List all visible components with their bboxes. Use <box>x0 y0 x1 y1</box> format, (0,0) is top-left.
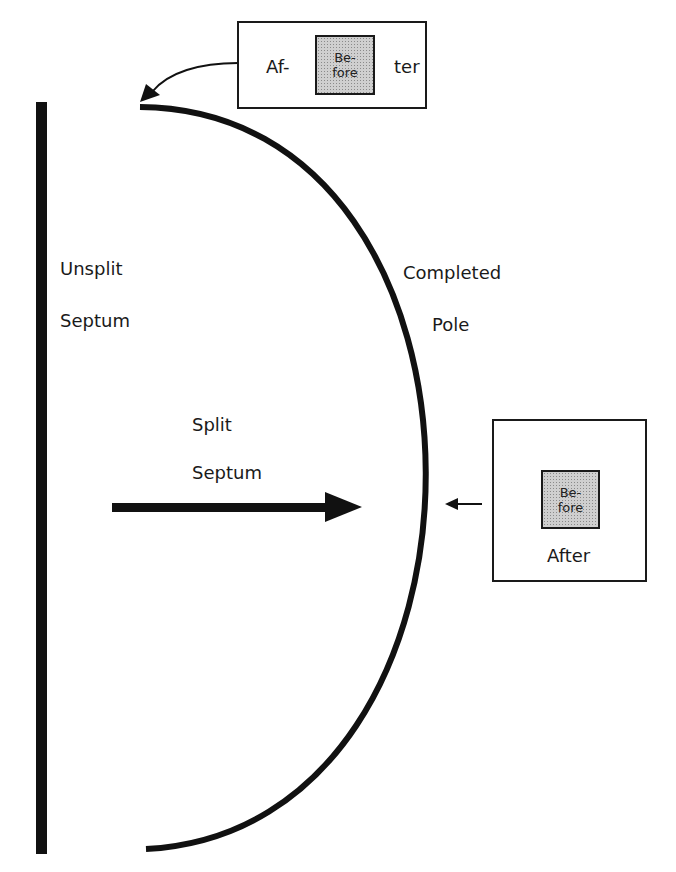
right-box-bottom-text: After <box>547 545 590 566</box>
completed-pole-arc <box>140 107 426 849</box>
top-box-inner-line2: fore <box>332 65 358 80</box>
split-septum-label-line1: Split <box>192 414 232 435</box>
right-box-inner-line2: fore <box>558 500 584 515</box>
right-inset-box: Be- fore After <box>492 419 647 582</box>
completed-pole-label-line1: Completed <box>403 262 501 283</box>
top-box-inner-square: Be- fore <box>315 35 375 95</box>
right-box-pointer-head <box>445 498 458 510</box>
completed-pole-label-line2: Pole <box>432 314 469 335</box>
split-septum-arrow-head <box>325 492 362 522</box>
unsplit-septum-bar <box>36 102 47 854</box>
top-box-curved-arrow <box>152 63 238 92</box>
top-box-right-text: ter <box>394 56 420 77</box>
top-box-left-text: Af- <box>266 56 290 77</box>
split-septum-arrow-shaft <box>112 503 327 512</box>
top-inset-box: Af- Be- fore ter <box>237 21 427 109</box>
right-box-inner-line1: Be- <box>560 485 582 500</box>
split-septum-label-line2: Septum <box>192 462 262 483</box>
top-box-inner-line1: Be- <box>334 50 356 65</box>
unsplit-label-line2: Septum <box>60 310 130 331</box>
right-box-inner-square: Be- fore <box>541 470 600 529</box>
unsplit-label-line1: Unsplit <box>60 258 122 279</box>
